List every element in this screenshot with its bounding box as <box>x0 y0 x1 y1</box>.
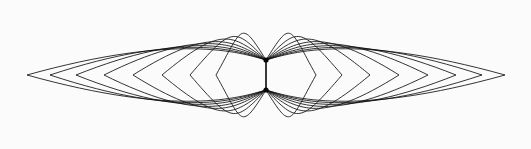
node-top <box>263 57 268 62</box>
figure-root <box>0 0 531 149</box>
node-bottom <box>263 87 268 92</box>
line-art-figure <box>0 0 531 149</box>
